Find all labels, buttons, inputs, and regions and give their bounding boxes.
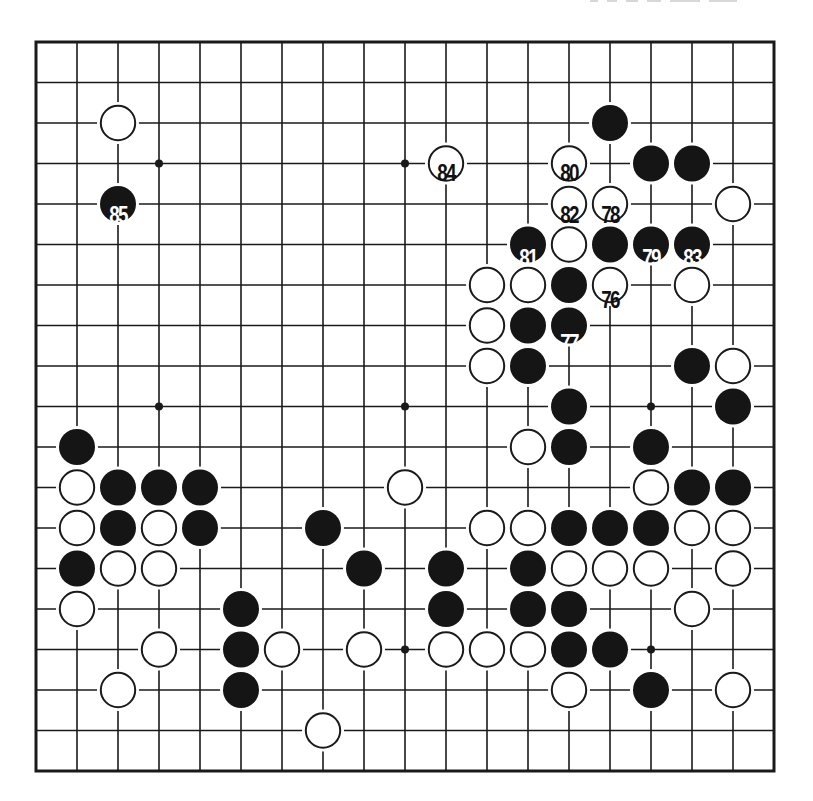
- white-stone-icon: [675, 592, 709, 626]
- white-stone-icon: [511, 430, 545, 464]
- white-stone-icon: [101, 673, 135, 707]
- black-stone: [589, 224, 631, 266]
- black-stone: [589, 507, 631, 549]
- white-stone-icon: [142, 511, 176, 545]
- star-point-icon: [647, 403, 655, 411]
- white-stone: [507, 629, 549, 671]
- white-stone: [507, 426, 549, 468]
- black-stone-icon: [633, 510, 669, 546]
- black-stone-icon: [59, 429, 95, 465]
- black-stone-icon: [592, 227, 628, 263]
- black-stone-icon: [674, 348, 710, 384]
- black-stone: [630, 507, 672, 549]
- black-stone: [507, 588, 549, 630]
- black-stone-icon: [551, 389, 587, 425]
- black-stone-icon: [592, 632, 628, 668]
- white-stone: [261, 629, 303, 671]
- white-stone-78: 78: [589, 183, 631, 229]
- white-stone-82: 82: [548, 183, 590, 229]
- star-point-icon: [401, 646, 409, 654]
- white-stone-icon: [716, 349, 750, 383]
- white-stone-icon: [470, 632, 504, 666]
- black-stone-icon: [674, 146, 710, 182]
- move-number-label: 76: [601, 286, 620, 314]
- black-stone: [548, 629, 590, 671]
- black-stone-icon: [100, 470, 136, 506]
- white-stone-icon: [470, 268, 504, 302]
- black-stone: [179, 507, 221, 549]
- white-stone-icon: [347, 632, 381, 666]
- black-stone-icon: [633, 672, 669, 708]
- black-stone: [97, 467, 139, 509]
- black-stone-icon: [182, 470, 218, 506]
- white-stone-icon: [716, 673, 750, 707]
- white-stone-icon: [634, 470, 668, 504]
- black-stone: [56, 548, 98, 590]
- white-stone-icon: [60, 511, 94, 545]
- move-number-label: 80: [560, 158, 579, 186]
- black-stone: [507, 305, 549, 347]
- black-stone: [671, 143, 713, 185]
- black-stone: [548, 588, 590, 630]
- black-stone: [179, 467, 221, 509]
- black-stone-icon: [551, 510, 587, 546]
- white-stone-icon: [101, 551, 135, 585]
- star-point-icon: [155, 160, 163, 168]
- black-stone: [589, 629, 631, 671]
- black-stone: [548, 264, 590, 306]
- black-stone-icon: [346, 551, 382, 587]
- white-stone: [548, 548, 590, 590]
- black-stone: [589, 102, 631, 144]
- white-stone: [425, 629, 467, 671]
- black-stone-icon: [633, 429, 669, 465]
- white-stone: [56, 588, 98, 630]
- white-stone: [671, 264, 713, 306]
- black-stone-85: 85: [97, 183, 139, 229]
- white-stone: [548, 669, 590, 711]
- move-number-label: 77: [560, 328, 579, 356]
- white-stone-icon: [470, 349, 504, 383]
- black-stone-icon: [551, 267, 587, 303]
- black-stone-icon: [633, 146, 669, 182]
- white-stone: [466, 629, 508, 671]
- black-stone: [138, 467, 180, 509]
- white-stone-icon: [716, 187, 750, 221]
- black-stone-icon: [510, 348, 546, 384]
- black-stone: [343, 548, 385, 590]
- go-board: 85817983778480827876: [0, 0, 813, 801]
- black-stone-icon: [510, 551, 546, 587]
- black-stone: [425, 548, 467, 590]
- move-number-label: 78: [601, 201, 620, 229]
- black-stone-icon: [715, 389, 751, 425]
- black-stone: [630, 426, 672, 468]
- white-stone: [712, 669, 754, 711]
- white-stone: [138, 548, 180, 590]
- black-stone: [56, 426, 98, 468]
- black-stone-icon: [592, 510, 628, 546]
- black-stone-icon: [510, 591, 546, 627]
- move-number-label: 84: [437, 158, 456, 186]
- white-stone: [466, 305, 508, 347]
- white-stone-icon: [470, 511, 504, 545]
- white-stone: [138, 629, 180, 671]
- black-stone: [425, 588, 467, 630]
- star-point-icon: [401, 160, 409, 168]
- white-stone: [466, 345, 508, 387]
- white-stone-icon: [511, 268, 545, 302]
- white-stone-icon: [60, 592, 94, 626]
- white-stone: [384, 467, 426, 509]
- white-stone-icon: [716, 511, 750, 545]
- white-stone-icon: [265, 632, 299, 666]
- white-stone-80: 80: [548, 143, 590, 187]
- black-stone-icon: [223, 591, 259, 627]
- white-stone-icon: [60, 470, 94, 504]
- black-stone-icon: [223, 672, 259, 708]
- black-stone: [548, 426, 590, 468]
- move-number-label: 85: [109, 201, 128, 229]
- white-stone: [466, 264, 508, 306]
- black-stone-icon: [592, 105, 628, 141]
- black-stone: [548, 507, 590, 549]
- white-stone: [466, 507, 508, 549]
- black-stone-icon: [223, 632, 259, 668]
- star-point-icon: [401, 403, 409, 411]
